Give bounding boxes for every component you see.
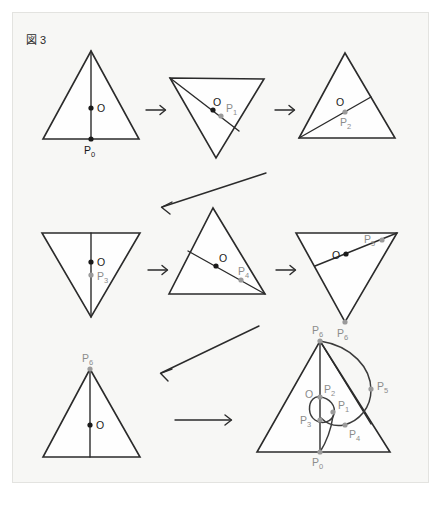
panel-8-p0-marker [317,449,322,454]
panel-5-p4-subscript: 4 [245,271,249,280]
panel-8-p4-marker [342,422,347,427]
panel-8-p4-subscript: 4 [356,434,360,443]
figure-caption: 図 3 [26,34,46,46]
panel-4-center-marker [88,259,93,264]
panel-8-p1-marker [330,409,335,414]
panel-3-p2-marker [342,109,347,114]
panel-1-center-marker [88,105,93,110]
panel-8-p5-subscript: 5 [384,386,388,395]
panel-2-center-marker [210,107,215,112]
figure-caption-number: 3 [40,34,46,46]
panel-8-p1-label: P [338,399,345,411]
panel-8-p3-subscript: 3 [307,420,311,429]
panel-8-p6-subscript: 6 [319,330,323,339]
panel-3-p2-subscript: 2 [347,122,351,131]
panel-8-p5-label: P [377,380,384,392]
panel-8-p6-marker [317,338,322,343]
panel-8-p6-label: P [312,324,319,336]
panel-8-p1-subscript: 1 [345,405,349,414]
figure-caption-mark: 図 [26,34,37,46]
panel-8-center-label: O [305,388,313,400]
panel-5-center-label: O [219,252,227,264]
figure-root: 図 3 O P 0 O P 1 [0,0,441,509]
panel-4-p3-marker [88,272,93,277]
panel-8-p2-marker [317,394,322,399]
panel-7-center-marker [87,422,92,427]
panel-8-p3-label: P [300,414,307,426]
panel-6-p5-subscript: 5 [371,239,375,248]
panel-4-center-label: O [97,256,105,268]
panel-7-p6-subscript: 6 [89,358,93,367]
panel-2-p1-subscript: 1 [233,108,237,117]
panel-4-p3-subscript: 3 [104,276,108,285]
panel-8-p0-subscript: 0 [319,462,323,471]
panel-8-p0-label: P [312,456,319,468]
panel-4-p3-label: P [97,270,104,282]
panel-6-center-marker [343,251,348,256]
panel-2-p1-label: P [226,102,233,114]
panel-3-center-label: O [336,96,344,108]
panel-8-p2-subscript: 2 [331,389,335,398]
panel-6-p6-subscript: 6 [344,333,348,342]
panel-7-p6-marker [87,366,92,371]
panel-7-p6-label: P [82,352,89,364]
panel-1-center-label: O [97,102,105,114]
panel-1-p0-marker [88,136,93,141]
panel-8-p2-label: P [324,383,331,395]
panel-6-p5-label: P [364,233,371,245]
panel-1-p0-subscript: 0 [91,150,95,159]
figure-canvas: 図 3 O P 0 O P 1 [0,0,441,509]
panel-7-center-label: O [96,419,104,431]
panel-8-p5-marker [368,386,373,391]
panel-8-p3-marker [317,417,322,422]
panel-6-p6-label: P [337,327,344,339]
panel-6-center-label: O [332,249,340,261]
panel-6-p5-marker [379,237,384,242]
panel-3-p2-label: P [340,116,347,128]
panel-2-p1-marker [218,113,223,118]
panel-8-p4-label: P [349,428,356,440]
panel-5-p4-marker [238,277,243,282]
panel-5-p4-label: P [238,265,245,277]
panel-5-center-marker [213,263,218,268]
panel-2-center-label: O [213,96,221,108]
panel-1-p0-label: P [84,144,91,156]
panel-6-p6-marker [342,319,347,324]
